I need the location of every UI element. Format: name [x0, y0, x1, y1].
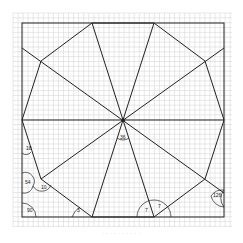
angle-label-vertex-ll: 10 [41, 184, 47, 190]
angle-label-right-lower: 126 [213, 192, 222, 198]
angle-labels: 3618541090377126 [25, 134, 222, 213]
angle-label-corner-bl: 90 [27, 207, 33, 213]
angle-label-bottom-right-v-left: 7 [145, 207, 148, 213]
geometry-diagram: 3618541090377126 [0, 0, 243, 243]
figure-lines [22, 23, 224, 217]
center-point [122, 119, 125, 122]
angle-label-bottom-right-v-right: 7 [158, 203, 161, 209]
figure-caption: · · · · · · · · · · [0, 230, 243, 236]
angle-arcs [22, 138, 224, 217]
angle-label-bottom-left-v: 3 [77, 207, 80, 213]
angle-label-left-mid: 54 [25, 179, 31, 185]
angle-label-left-upper: 18 [26, 145, 32, 151]
angle-label-center: 36 [120, 134, 126, 140]
